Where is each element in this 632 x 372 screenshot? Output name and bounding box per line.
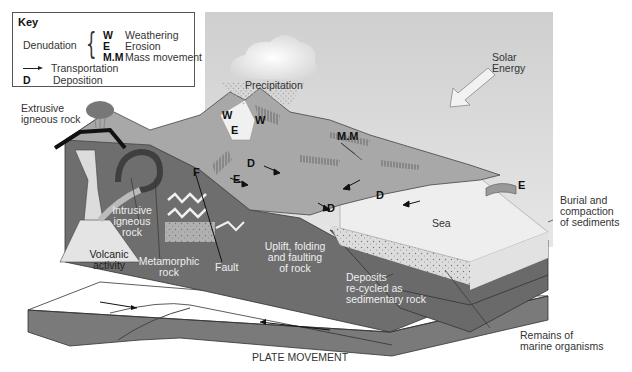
- marker-erosion-2: E: [233, 174, 240, 186]
- label-activity: activity: [84, 260, 134, 272]
- marker-mass-movement: M.M: [337, 131, 358, 143]
- label-marine-organisms: marine organisms: [520, 341, 603, 353]
- label-intrusive-3: rock: [110, 227, 154, 239]
- marker-fault: F: [193, 167, 200, 179]
- key-title: Key: [18, 16, 38, 28]
- label-of-sediments: of sediments: [560, 217, 620, 229]
- marker-deposition-1: D: [247, 158, 255, 170]
- label-precipitation: Precipitation: [245, 80, 303, 92]
- label-fault: Fault: [215, 262, 238, 274]
- key-item-deposition: DDeposition: [23, 74, 103, 86]
- label-uplift-3: of rock: [255, 263, 335, 275]
- marker-deposition-2: D: [327, 203, 335, 215]
- label-plate-movement: PLATE MOVEMENT: [252, 352, 348, 364]
- label-sedimentary: sedimentary rock: [346, 294, 426, 306]
- brace-icon: {: [86, 29, 97, 59]
- rock-cycle-diagram: Key Denudation { WWeathering EErosion M.…: [0, 0, 632, 372]
- marker-weathering-1: W: [222, 110, 232, 122]
- marker-erosion-3: E: [518, 180, 525, 192]
- label-extrusive-2: igneous rock: [21, 114, 81, 126]
- transport-arrow-icon: [23, 68, 41, 69]
- label-sea: Sea: [432, 218, 451, 230]
- label-metamorphic-2: rock: [134, 267, 204, 279]
- marker-weathering-2: W: [255, 115, 265, 127]
- key-item-transportation: Transportation: [51, 62, 118, 74]
- marker-erosion-1: E: [231, 125, 238, 137]
- key-denudation-label: Denudation: [23, 39, 77, 51]
- label-energy: Energy: [492, 63, 525, 75]
- legend-key: Key Denudation { WWeathering EErosion M.…: [12, 12, 195, 87]
- marker-deposition-3: D: [376, 190, 384, 202]
